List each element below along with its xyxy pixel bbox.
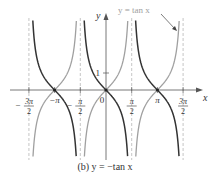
x-tick-label: 3π2 <box>178 97 188 116</box>
svg-text:−: − <box>15 100 20 110</box>
svg-text:−: − <box>67 100 72 110</box>
svg-text:π: π <box>130 97 135 106</box>
x-axis-label: x <box>202 92 208 103</box>
intersection-point <box>53 88 56 91</box>
x-tick-label: 0 <box>100 95 105 105</box>
svg-text:2: 2 <box>78 107 82 116</box>
chart-caption: (b) y = −tan x <box>0 161 210 172</box>
x-tick-label: π <box>155 95 160 105</box>
svg-text:3π: 3π <box>24 97 34 106</box>
x-tick-label: −3π2 <box>15 97 34 116</box>
x-tick-label: π2 <box>127 97 137 116</box>
x-axis-arrow-icon <box>196 88 203 93</box>
svg-text:3π: 3π <box>178 97 188 106</box>
x-tick-label: −π <box>49 95 60 105</box>
svg-text:π: π <box>78 97 83 106</box>
annotation-arrow <box>161 14 175 29</box>
intersection-point <box>156 88 159 91</box>
svg-text:2: 2 <box>130 107 134 116</box>
svg-text:2: 2 <box>27 107 31 116</box>
y-tick-label: 1 <box>96 68 101 78</box>
y-axis-arrow-icon <box>104 13 109 20</box>
svg-text:2: 2 <box>181 107 185 116</box>
tangent-plot: xy −3π2−π−π20π2π3π21 y = tan x <box>0 0 210 179</box>
y-axis-label: y <box>95 10 101 21</box>
intersection-point <box>104 88 107 91</box>
annotation-label: y = tan x <box>118 5 150 15</box>
